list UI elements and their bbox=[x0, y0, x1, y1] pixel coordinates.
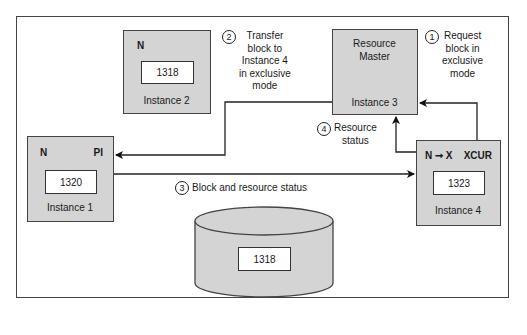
arrow-resource-status bbox=[396, 117, 416, 152]
step-1-badge: 1 bbox=[425, 30, 439, 44]
instance-2-node: N 1318 Instance 2 bbox=[123, 30, 211, 114]
instance-1-label: Instance 1 bbox=[28, 202, 112, 213]
step-2-text: Transfer block to Instance 4 in exclusiv… bbox=[239, 30, 291, 93]
step-3-badge: 3 bbox=[175, 181, 189, 195]
instance-1-pi-state: PI bbox=[94, 147, 103, 158]
disk-block: 1318 bbox=[238, 247, 291, 271]
step-1-text: Request block in exclusive mode bbox=[442, 30, 483, 80]
instance-1-block: 1320 bbox=[45, 170, 97, 194]
instance-4-xcur-state: XCUR bbox=[464, 150, 492, 161]
resource-master-line1: Resource bbox=[353, 38, 396, 49]
instance-2-label: Instance 2 bbox=[124, 95, 209, 106]
instance-4-state-transition: N ➞ X bbox=[425, 150, 452, 161]
step-4-text: Resource status bbox=[334, 122, 377, 147]
instance-4-block: 1323 bbox=[433, 171, 485, 195]
instance-4-node: N ➞ X XCUR 1323 Instance 4 bbox=[416, 140, 501, 226]
instance-1-state: N bbox=[40, 147, 47, 158]
instance-3-label: Instance 3 bbox=[333, 97, 416, 108]
step-1-annotation: 1 Request block in exclusive mode bbox=[425, 30, 483, 80]
instance-2-block: 1318 bbox=[141, 61, 194, 84]
step-3-text: Block and resource status bbox=[192, 182, 307, 195]
step-4-annotation: 4 Resource status bbox=[317, 122, 377, 147]
step-4-badge: 4 bbox=[317, 122, 331, 136]
instance-4-label: Instance 4 bbox=[417, 205, 499, 216]
resource-master-line2: Master bbox=[359, 51, 390, 62]
resource-master-label: Resource Master bbox=[333, 37, 416, 63]
instance-2-state: N bbox=[137, 40, 144, 51]
instance-1-node: N PI 1320 Instance 1 bbox=[27, 136, 114, 222]
step-2-annotation: 2 Transfer block to Instance 4 in exclus… bbox=[222, 30, 291, 93]
arrow-request bbox=[420, 103, 477, 140]
instance-3-node: Resource Master Instance 3 bbox=[332, 29, 418, 115]
step-3-annotation: 3 Block and resource status bbox=[175, 181, 307, 195]
step-2-badge: 2 bbox=[222, 30, 236, 44]
